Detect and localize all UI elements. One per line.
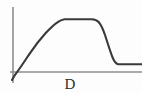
- plot-canvas: D: [0, 0, 142, 93]
- data-curve-path: [12, 19, 142, 80]
- plot-figure: D: [0, 0, 142, 93]
- x-axis-label: D: [65, 76, 76, 92]
